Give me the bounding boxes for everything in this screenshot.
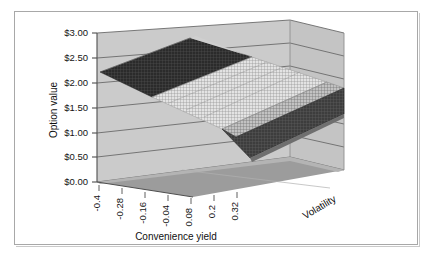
z-tick-label: $1.00 [64, 127, 88, 138]
z-axis [92, 33, 97, 182]
z-tick-labels: $3.00 $2.50 $2.00 $1.50 $1.00 $0.50 $0.0… [64, 27, 88, 187]
x-tick-label: 0.32 [229, 202, 240, 221]
x-axis-title: Convenience yield [135, 231, 217, 242]
z-tick-label: $1.50 [64, 102, 88, 113]
z-tick-label: $2.50 [64, 52, 88, 63]
x-tick-label: -0.4 [91, 195, 102, 211]
x-tick-label: -0.04 [160, 205, 171, 227]
z-tick-label: $3.00 [64, 27, 88, 38]
z-tick-label: $0.50 [64, 151, 88, 162]
surface-chart: $3.00 $2.50 $2.00 $1.50 $1.00 $0.50 $0.0… [0, 0, 436, 264]
x-tick-label: -0.16 [137, 202, 148, 224]
z-tick-label: $2.00 [64, 77, 88, 88]
z-axis-title-group: Option value [48, 81, 59, 138]
y-axis-title: Volatility [301, 193, 338, 221]
z-axis-title: Option value [48, 81, 59, 138]
z-tick-label: $0.00 [64, 176, 88, 187]
x-tick-label: 0.08 [183, 208, 194, 227]
screenshot-root: $3.00 $2.50 $2.00 $1.50 $1.00 $0.50 $0.0… [0, 0, 436, 264]
x-tick-label: 0.2 [206, 205, 217, 218]
x-tick-labels: -0.4 -0.28 -0.16 -0.04 0.08 0.2 0.32 [91, 195, 240, 227]
chart-canvas: $3.00 $2.50 $2.00 $1.50 $1.00 $0.50 $0.0… [0, 0, 436, 264]
x-tick-label: -0.28 [114, 198, 125, 220]
